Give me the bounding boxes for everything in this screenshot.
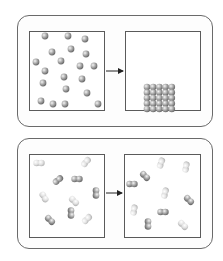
gas-particle: [63, 86, 70, 93]
panel-2-after-molecules: [126, 157, 195, 232]
diatomic-molecule: [68, 195, 81, 208]
solid-particle: [162, 106, 169, 113]
diagram-canvas: [0, 0, 223, 261]
gas-particle: [83, 51, 90, 58]
gas-particle: [77, 63, 84, 70]
solid-particle: [144, 106, 151, 113]
gas-particle: [82, 36, 89, 43]
diatomic-molecule: [33, 160, 44, 167]
gas-particle: [42, 33, 49, 40]
diatomic-molecule: [157, 209, 168, 216]
gas-particle: [49, 49, 56, 56]
gas-particle: [42, 68, 49, 75]
diatomic-molecule: [93, 187, 100, 198]
diatomic-molecule: [160, 187, 169, 200]
diatomic-molecule: [130, 204, 138, 216]
gas-particle: [33, 59, 40, 66]
diatomic-molecule: [38, 190, 49, 203]
diatomic-molecule: [183, 194, 196, 207]
diatomic-molecule: [156, 157, 166, 170]
gas-particle: [79, 76, 86, 83]
solid-particle: [156, 106, 163, 113]
gas-particle: [58, 58, 65, 65]
gas-particle: [91, 63, 98, 70]
diatomic-molecule: [52, 174, 65, 186]
diatomic-molecule: [71, 176, 82, 183]
gas-particle: [40, 80, 47, 87]
diatomic-molecule: [81, 213, 94, 226]
diatomic-molecule: [182, 161, 190, 173]
diatomic-molecule: [139, 170, 152, 183]
diatomic-molecule: [68, 207, 75, 218]
panel-1-gas-particles: [33, 33, 102, 108]
gas-particle: [50, 101, 57, 108]
panel-2-before-molecules: [33, 156, 99, 227]
diatomic-molecule: [126, 181, 137, 188]
diatomic-molecule: [177, 219, 190, 232]
diatomic-molecule: [80, 156, 92, 169]
gas-particle: [62, 101, 69, 108]
diatomic-molecule: [145, 218, 152, 229]
diatomic-molecule: [44, 214, 57, 227]
gas-particle: [84, 90, 91, 97]
gas-particle: [65, 33, 72, 40]
gas-particle: [68, 46, 75, 53]
gas-particle: [61, 74, 68, 81]
panel-1-solid-block: [144, 84, 175, 113]
solid-particle: [169, 106, 176, 113]
gas-particle: [38, 98, 45, 105]
gas-particle: [95, 101, 102, 108]
solid-particle: [150, 106, 157, 113]
